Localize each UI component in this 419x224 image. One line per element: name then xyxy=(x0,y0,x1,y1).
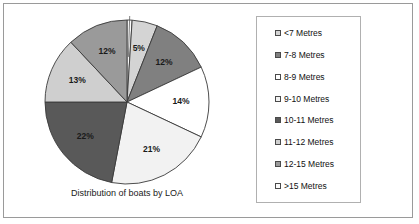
legend-item-label: 11-12 Metres xyxy=(284,137,333,147)
pie-slice-label: 12% xyxy=(155,57,172,67)
legend-item[interactable]: <7 Metres xyxy=(257,23,360,43)
legend-item-label: 12-15 Metres xyxy=(284,159,334,169)
legend-item[interactable]: 9-10 Metres xyxy=(257,89,360,109)
chart-legend: <7 Metres7-8 Metres8-9 Metres9-10 Metres… xyxy=(256,16,361,203)
pie-slice-label: 14% xyxy=(173,96,190,106)
pie-slice-label: 12% xyxy=(99,46,116,56)
legend-item-label: 7-8 Metres xyxy=(284,50,325,60)
legend-item[interactable]: 10-11 Metres xyxy=(257,110,360,130)
chart-frame: 1%5%12%14%21%22%13%12% Distribution of b… xyxy=(3,3,413,218)
legend-item[interactable]: 8-9 Metres xyxy=(257,67,360,87)
chart-caption: Distribution of boats by LOA xyxy=(4,188,250,198)
legend-item-label: >15 Metres xyxy=(284,181,327,191)
legend-item-label: <7 Metres xyxy=(284,28,322,38)
pie-chart: 1%5%12%14%21%22%13%12% xyxy=(36,16,218,188)
pie-chart-area: 1%5%12%14%21%22%13%12% Distribution of b… xyxy=(4,4,250,217)
legend-item-label: 10-11 Metres xyxy=(284,115,333,125)
legend-item[interactable]: 7-8 Metres xyxy=(257,45,360,65)
legend-swatch-icon xyxy=(275,74,281,80)
legend-swatch-icon xyxy=(275,183,281,189)
legend-swatch-icon xyxy=(275,117,281,123)
legend-item-label: 8-9 Metres xyxy=(284,72,325,82)
legend-swatch-icon xyxy=(275,52,281,58)
legend-item-label: 9-10 Metres xyxy=(284,94,329,104)
legend-item[interactable]: 12-15 Metres xyxy=(257,154,360,174)
pie-slice-label: 22% xyxy=(77,131,94,141)
legend-swatch-icon xyxy=(275,139,281,145)
pie-slice-label: 21% xyxy=(143,144,160,154)
legend-item[interactable]: 11-12 Metres xyxy=(257,132,360,152)
legend-item[interactable]: >15 Metres xyxy=(257,176,360,196)
pie-slice-label: 13% xyxy=(69,75,86,85)
legend-swatch-icon xyxy=(275,30,281,36)
legend-swatch-icon xyxy=(275,96,281,102)
legend-swatch-icon xyxy=(275,161,281,167)
pie-slice-label: 5% xyxy=(133,43,146,53)
